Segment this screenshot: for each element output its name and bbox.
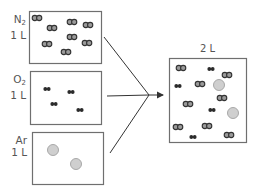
n2-molecule-icon: [183, 101, 193, 106]
o2-formula: O2: [13, 73, 26, 85]
n2-container-label: N2 1 L: [2, 13, 26, 41]
ar-molecule-icon: [71, 159, 82, 170]
n2-molecule-icon: [173, 124, 183, 129]
arrows-layer: [104, 37, 163, 153]
arrow-line-1: [107, 95, 149, 96]
ar-volume: 1 L: [2, 146, 27, 158]
n2-molecule-icon: [61, 49, 71, 54]
ar-formula: Ar: [16, 134, 28, 146]
ar-molecule-icon: [228, 108, 239, 119]
n2-molecule-icon: [176, 65, 186, 70]
ar-molecule-icon: [48, 145, 59, 156]
n2-molecule-icon: [195, 81, 205, 86]
n2-molecule-icon: [67, 19, 77, 24]
ar-container-label: Ar 1 L: [2, 134, 27, 158]
n2-molecule-icon: [82, 40, 92, 45]
n2-molecule-icon: [222, 72, 232, 77]
o2-volume: 1 L: [2, 89, 26, 101]
n2-molecule-icon: [83, 22, 93, 27]
n2-molecule-icon: [42, 41, 52, 46]
arrow-line-2: [110, 95, 149, 153]
n2-molecule-icon: [67, 34, 77, 39]
n2-molecule-icon: [217, 95, 227, 100]
mixture-volume-label: 2 L: [200, 43, 215, 54]
o2-container-label: O2 1 L: [2, 73, 26, 101]
diagram-canvas: [0, 0, 260, 196]
containers-layer: [30, 12, 247, 185]
ar-container-box: [33, 133, 104, 185]
n2-molecule-icon: [32, 15, 42, 20]
n2-formula: N2: [14, 13, 26, 25]
o2-container-box: [31, 72, 102, 125]
arrow-line-0: [104, 37, 149, 95]
n2-volume: 1 L: [2, 29, 26, 41]
n2-molecule-icon: [224, 132, 234, 137]
n2-molecule-icon: [202, 123, 212, 128]
gas-mixing-diagram: N2 1 L O2 1 L Ar 1 L 2 L: [0, 0, 260, 196]
n2-molecule-icon: [47, 25, 57, 30]
ar-molecule-icon: [214, 80, 225, 91]
